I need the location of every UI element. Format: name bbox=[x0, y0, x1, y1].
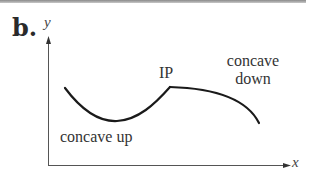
concave-down-curve bbox=[170, 87, 259, 123]
x-axis-arrowhead-icon bbox=[283, 163, 291, 168]
concave-down-label: concave down bbox=[222, 52, 284, 88]
concave-down-label-line1: concave bbox=[222, 52, 284, 70]
y-axis-arrowhead-icon bbox=[46, 36, 51, 44]
concave-up-curve bbox=[65, 87, 170, 121]
concave-down-label-line2: down bbox=[222, 70, 284, 88]
inflection-point-label: IP bbox=[159, 64, 173, 82]
concave-up-label: concave up bbox=[60, 128, 132, 146]
